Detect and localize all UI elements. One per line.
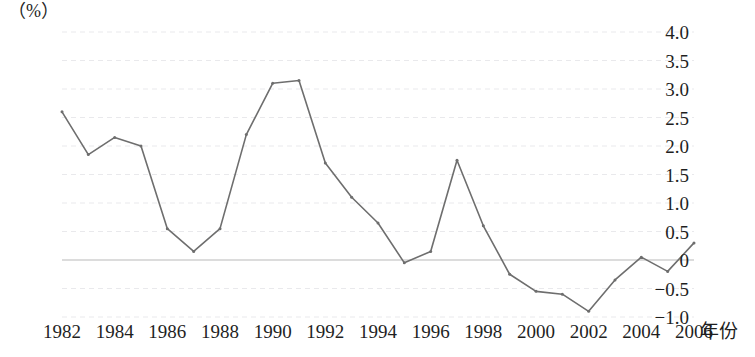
data-point <box>561 293 564 296</box>
data-point <box>61 110 64 113</box>
y-tick-label: −0.5 <box>655 279 689 298</box>
data-point <box>140 145 143 148</box>
x-tick-label: 1986 <box>148 322 186 341</box>
y-tick-label: 3.0 <box>665 80 689 99</box>
x-tick-label: 1998 <box>464 322 502 341</box>
x-tick-label: 1984 <box>96 322 134 341</box>
data-point <box>350 196 353 199</box>
y-tick-label: 0.5 <box>665 222 689 241</box>
data-point <box>693 241 696 244</box>
data-point <box>377 221 380 224</box>
chart-canvas <box>0 0 755 357</box>
data-point <box>166 227 169 230</box>
x-axis-title: 年份 <box>700 322 738 341</box>
y-tick-label: 1.0 <box>665 194 689 213</box>
x-tick-label: 1994 <box>359 322 397 341</box>
data-point <box>219 227 222 230</box>
y-tick-label: 0 <box>680 251 690 270</box>
data-point <box>245 133 248 136</box>
x-tick-label: 1996 <box>412 322 450 341</box>
y-tick-label: 2.5 <box>665 108 689 127</box>
series-path <box>62 80 694 311</box>
x-tick-label: 2002 <box>570 322 608 341</box>
data-point <box>508 273 511 276</box>
y-tick-label: 1.5 <box>665 165 689 184</box>
data-series-line <box>62 80 694 311</box>
data-point <box>403 261 406 264</box>
data-point <box>87 153 90 156</box>
data-point <box>666 270 669 273</box>
data-point <box>535 290 538 293</box>
x-tick-label: 1990 <box>254 322 292 341</box>
x-tick-label: 2004 <box>622 322 660 341</box>
x-tick-label: 1988 <box>201 322 239 341</box>
x-tick-label: 2000 <box>517 322 555 341</box>
y-tick-label: 4.0 <box>665 23 689 42</box>
data-point <box>456 159 459 162</box>
line-chart: （%） 4.03.53.02.52.01.51.00.50−0.5−1.0 19… <box>0 0 755 357</box>
data-point <box>614 278 617 281</box>
data-point <box>429 250 432 253</box>
data-point-markers <box>61 79 696 313</box>
data-point <box>298 79 301 82</box>
y-tick-label: 2.0 <box>665 137 689 156</box>
data-point <box>482 224 485 227</box>
data-point <box>587 310 590 313</box>
data-point <box>113 136 116 139</box>
data-point <box>192 250 195 253</box>
x-tick-label: 1992 <box>306 322 344 341</box>
x-tick-label: 1982 <box>43 322 81 341</box>
gridlines <box>62 32 694 317</box>
data-point <box>640 256 643 259</box>
data-point <box>271 82 274 85</box>
y-tick-label: 3.5 <box>665 51 689 70</box>
data-point <box>324 162 327 165</box>
